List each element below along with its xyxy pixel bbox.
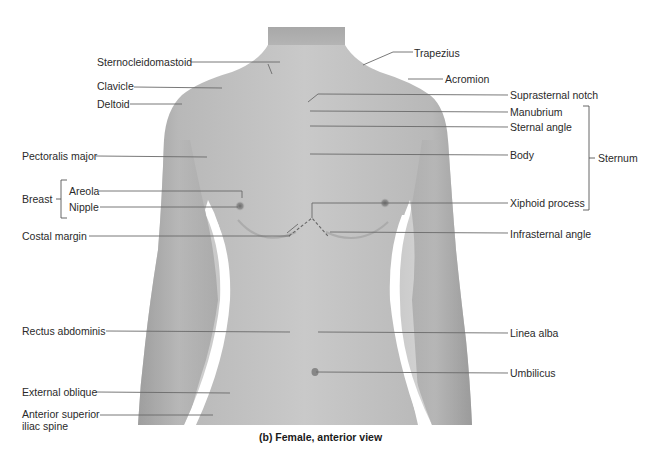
label-infrasternal-angle: Infrasternal angle <box>510 228 591 240</box>
label-body: Body <box>510 149 534 161</box>
figure-caption: (b) Female, anterior view <box>259 431 382 443</box>
label-external-oblique: External oblique <box>22 386 97 398</box>
label-costal-margin: Costal margin <box>22 230 87 242</box>
label-breast: Breast <box>22 193 52 205</box>
body-silhouette <box>138 27 472 425</box>
label-manubrium: Manubrium <box>510 106 563 118</box>
label-areola: Areola <box>69 185 99 197</box>
label-sternal-angle: Sternal angle <box>510 121 572 133</box>
label-sternum: Sternum <box>598 152 638 164</box>
label-umbilicus: Umbilicus <box>510 367 556 379</box>
label-clavicle: Clavicle <box>97 80 134 92</box>
label-xiphoid-process: Xiphoid process <box>510 197 585 209</box>
label-trapezius: Trapezius <box>414 47 460 59</box>
breast-bracket <box>56 180 67 218</box>
label-suprasternal-notch: Suprasternal notch <box>510 89 598 101</box>
label-deltoid: Deltoid <box>97 98 130 110</box>
label-acromion: Acromion <box>445 73 489 85</box>
label-rectus-abdominis: Rectus abdominis <box>22 325 105 337</box>
label-pectoralis-major: Pectoralis major <box>22 150 97 162</box>
sternum-bracket <box>583 106 595 210</box>
label-nipple: Nipple <box>69 201 99 213</box>
label-asis-line1: Anterior superior <box>22 408 100 420</box>
anatomy-figure: Sternocleidomastoid Clavicle Deltoid Pec… <box>0 0 660 459</box>
label-asis-line2: iliac spine <box>22 420 68 432</box>
label-sternocleidomastoid: Sternocleidomastoid <box>97 56 192 68</box>
label-linea-alba: Linea alba <box>510 327 558 339</box>
